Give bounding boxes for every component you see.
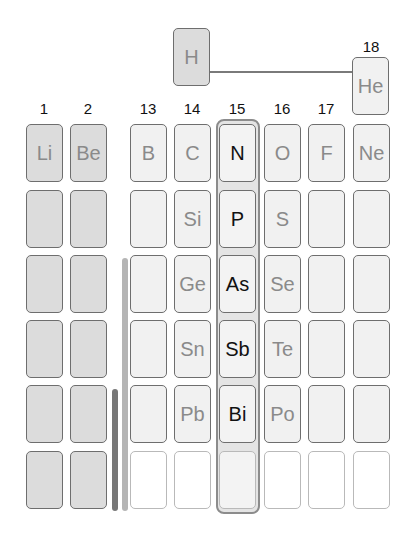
element-cell — [26, 190, 63, 248]
element-cell: Sb — [219, 320, 256, 378]
element-cell — [26, 451, 63, 509]
element-cell: Sn — [174, 320, 211, 378]
element-cell: Bi — [219, 385, 256, 443]
element-cell: Po — [264, 385, 301, 443]
element-cell: C — [174, 124, 211, 182]
element-cell — [130, 385, 167, 443]
element-cell — [70, 190, 107, 248]
element-cell — [26, 320, 63, 378]
element-cell: Be — [70, 124, 107, 182]
element-cell — [264, 451, 301, 509]
group-label-15: 15 — [217, 100, 257, 117]
h-he-connector — [210, 71, 353, 73]
element-cell: O — [264, 124, 301, 182]
group-label-17: 17 — [306, 100, 346, 117]
element-cell — [130, 255, 167, 313]
element-cell — [130, 320, 167, 378]
group-label-14: 14 — [172, 100, 212, 117]
element-cell — [70, 255, 107, 313]
element-cell: F — [308, 124, 345, 182]
element-cell — [174, 451, 211, 509]
element-cell — [308, 190, 345, 248]
element-cell — [26, 385, 63, 443]
element-cell: Se — [264, 255, 301, 313]
element-cell — [308, 255, 345, 313]
element-h: H — [173, 28, 210, 86]
group-label-2: 2 — [68, 100, 108, 117]
element-cell: B — [130, 124, 167, 182]
element-cell: Pb — [174, 385, 211, 443]
element-cell — [353, 451, 390, 509]
element-cell — [130, 451, 167, 509]
group-label-18: 18 — [351, 38, 391, 55]
dark-divider-bar — [112, 389, 118, 511]
element-cell: Ne — [353, 124, 390, 182]
element-cell — [70, 451, 107, 509]
element-cell: Si — [174, 190, 211, 248]
group-label-13: 13 — [128, 100, 168, 117]
element-cell: Li — [26, 124, 63, 182]
element-he: He — [352, 57, 389, 115]
element-cell — [70, 385, 107, 443]
element-cell — [353, 320, 390, 378]
element-cell — [353, 255, 390, 313]
element-cell — [70, 320, 107, 378]
element-cell — [353, 385, 390, 443]
element-cell — [308, 385, 345, 443]
element-cell: S — [264, 190, 301, 248]
element-cell — [308, 320, 345, 378]
group-label-1: 1 — [24, 100, 64, 117]
group-label-16: 16 — [262, 100, 302, 117]
element-cell — [130, 190, 167, 248]
element-cell: Te — [264, 320, 301, 378]
element-cell — [353, 190, 390, 248]
element-cell: N — [219, 124, 256, 182]
light-divider-bar — [122, 258, 128, 511]
element-cell — [219, 451, 256, 509]
element-cell: P — [219, 190, 256, 248]
element-cell — [308, 451, 345, 509]
element-cell — [26, 255, 63, 313]
element-cell: As — [219, 255, 256, 313]
element-cell: Ge — [174, 255, 211, 313]
